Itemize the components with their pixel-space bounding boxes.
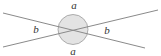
label-top-angle: a bbox=[71, 0, 77, 11]
angle-diagram: a a b b bbox=[0, 0, 161, 56]
angle-circle bbox=[58, 15, 88, 45]
label-right-angle: b bbox=[104, 24, 110, 36]
label-left-angle: b bbox=[33, 23, 39, 35]
label-bottom-angle: a bbox=[70, 45, 76, 56]
